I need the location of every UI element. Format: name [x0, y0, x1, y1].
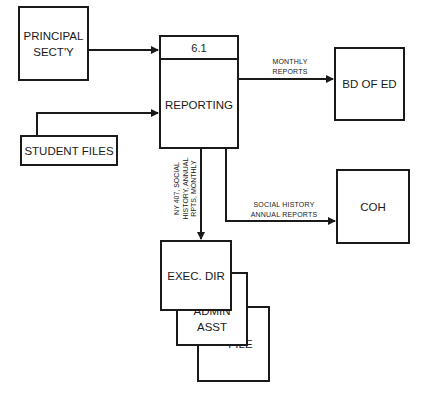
entity-coh-label: COH — [360, 199, 386, 215]
entity-student-files-label: STUDENT FILES — [24, 143, 113, 159]
flow-student-files-to-reporting — [37, 113, 158, 135]
entity-principal-line1: PRINCIPAL — [24, 28, 84, 44]
entity-principal-line2: SECT'Y — [24, 44, 84, 60]
flow-label-monthly-reports: MONTHLY REPORTS — [255, 57, 325, 77]
process-reporting[interactable]: 6.1 REPORTING — [159, 35, 239, 149]
entity-bd-of-ed[interactable]: BD OF ED — [334, 47, 405, 121]
process-id: 6.1 — [161, 37, 237, 60]
process-label: REPORTING — [161, 60, 237, 149]
flow-label-line2: ANNUAL REPORTS — [238, 210, 330, 220]
entity-bd-of-ed-label: BD OF ED — [342, 76, 396, 92]
entity-principal-secty[interactable]: PRINCIPAL SECT'Y — [18, 6, 89, 81]
flow-label-line2: HISTORY, ANNUAL — [181, 149, 190, 229]
flow-label-line2: REPORTS — [255, 67, 325, 77]
flow-label-line1: SOCIAL HISTORY — [238, 200, 330, 210]
flow-label-line1: MONTHLY — [255, 57, 325, 67]
flow-label-social-history: SOCIAL HISTORY ANNUAL REPORTS — [238, 200, 330, 220]
entity-exec-dir-label: EXEC. DIR — [167, 268, 225, 284]
entity-student-files[interactable]: STUDENT FILES — [20, 135, 118, 166]
flow-label-line1: NY 407, SOCIAL — [173, 149, 182, 229]
entity-admin-asst-line2: ASST — [193, 319, 230, 335]
entity-coh[interactable]: COH — [336, 169, 410, 244]
entity-exec-dir[interactable]: EXEC. DIR — [160, 240, 232, 311]
flow-label-line3: RPTS, MONTHLY — [190, 149, 199, 229]
flow-label-ny407: NY 407, SOCIAL HISTORY, ANNUAL RPTS, MON… — [173, 149, 200, 229]
